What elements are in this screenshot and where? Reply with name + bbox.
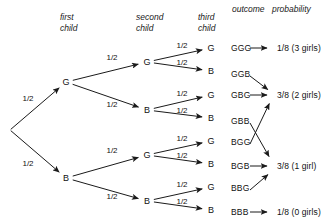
tree-branches bbox=[11, 50, 202, 209]
node-bb: B bbox=[144, 196, 150, 206]
outcome-arrows bbox=[250, 48, 269, 212]
header-second-child: second child bbox=[136, 12, 163, 33]
outcome-GGB: GGB bbox=[231, 69, 251, 79]
branch-root-to-g bbox=[11, 88, 59, 129]
outcome-BGB: BGB bbox=[231, 161, 250, 171]
outcome-GBB: GBB bbox=[231, 116, 250, 126]
node-leaf2: B bbox=[208, 66, 214, 76]
node-gg: G bbox=[143, 57, 150, 67]
branch-prob-b-to-bb: 1/2 bbox=[106, 192, 117, 201]
node-leaf4: B bbox=[208, 113, 214, 123]
outcome-BBG: BBG bbox=[231, 183, 250, 193]
branch-prob-bg-to-leaf5: 1/2 bbox=[176, 134, 187, 143]
node-leaf6: B bbox=[208, 159, 214, 169]
branch-prob-gb-to-leaf4: 1/2 bbox=[176, 106, 187, 115]
branch-prob-root-to-b: 1/2 bbox=[22, 159, 33, 168]
arrow-bbg-to-p3 bbox=[250, 175, 268, 190]
node-leaf7: G bbox=[207, 182, 214, 192]
outcome-BGG: BGG bbox=[231, 137, 251, 147]
node-leaf5: G bbox=[207, 136, 214, 146]
branch-root-to-b bbox=[11, 131, 59, 172]
node-bg: G bbox=[143, 150, 150, 160]
branch-prob-bb-to-leaf7: 1/2 bbox=[176, 180, 187, 189]
probability-p1: 1/8 (3 girls) bbox=[277, 43, 321, 53]
branch-prob-bg-to-leaf6: 1/2 bbox=[176, 151, 187, 160]
branch-prob-g-to-gg: 1/2 bbox=[106, 53, 117, 62]
outcome-GGG: GGG bbox=[231, 43, 251, 53]
branch-g-to-gg bbox=[73, 64, 138, 80]
probability-p2: 3/8 (2 girls) bbox=[277, 90, 321, 100]
arrow-bgg-to-p2 bbox=[250, 104, 269, 144]
probability-p4: 1/8 (0 girls) bbox=[277, 207, 321, 217]
node-gb: B bbox=[144, 105, 150, 115]
branch-prob-root-to-g: 1/2 bbox=[22, 94, 33, 103]
node-leaf8: B bbox=[208, 205, 214, 215]
branch-prob-gg-to-leaf2: 1/2 bbox=[176, 58, 187, 67]
branch-prob-bb-to-leaf8: 1/2 bbox=[176, 197, 187, 206]
probability-tree-diagram: first childsecond childthird childoutcom… bbox=[0, 0, 325, 224]
outcome-BBB: BBB bbox=[231, 207, 249, 217]
header-probability: probability bbox=[272, 4, 311, 15]
tree-edges-canvas bbox=[0, 0, 325, 224]
node-b: B bbox=[63, 173, 69, 183]
branch-prob-gb-to-leaf3: 1/2 bbox=[176, 89, 187, 98]
arrow-ggb-to-p2 bbox=[250, 76, 268, 90]
outcome-GBG: GBG bbox=[231, 90, 251, 100]
header-third-child: third child bbox=[198, 12, 215, 33]
arrow-gbb-to-p3 bbox=[250, 123, 269, 157]
branch-prob-b-to-bg: 1/2 bbox=[106, 146, 117, 155]
node-leaf3: G bbox=[207, 90, 214, 100]
node-leaf1: G bbox=[207, 43, 214, 53]
branch-prob-gg-to-leaf1: 1/2 bbox=[176, 41, 187, 50]
branch-prob-g-to-gb: 1/2 bbox=[106, 100, 117, 109]
probability-p3: 3/8 (1 girl) bbox=[277, 161, 316, 171]
header-outcome: outcome bbox=[232, 4, 265, 15]
header-first-child: first child bbox=[60, 12, 77, 33]
branch-b-to-bg bbox=[73, 157, 139, 176]
node-g: G bbox=[62, 77, 69, 87]
